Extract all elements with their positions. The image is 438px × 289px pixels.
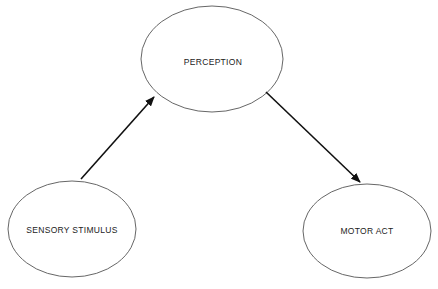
- diagram-canvas: [0, 0, 438, 289]
- arrow-perception-to-motor: [266, 92, 360, 182]
- node-sensory-label: SENSORY STIMULUS: [26, 225, 117, 235]
- node-perception-label: PERCEPTION: [184, 57, 242, 67]
- arrow-sensory-to-perception: [81, 97, 154, 179]
- node-motor-label: MOTOR ACT: [340, 226, 393, 236]
